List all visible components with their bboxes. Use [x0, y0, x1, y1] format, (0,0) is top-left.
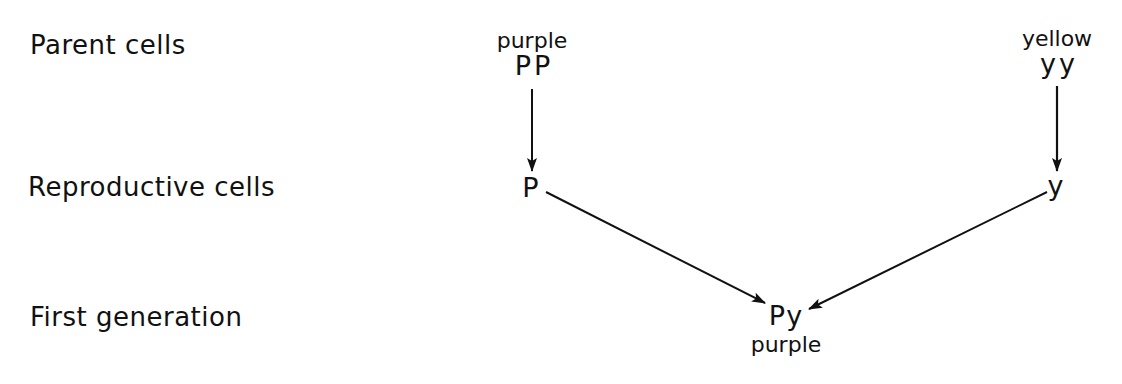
arrow-right-gamete-to-offspring — [809, 192, 1047, 309]
arrow-left-gamete-to-offspring — [546, 192, 765, 303]
inheritance-arrows — [0, 0, 1122, 384]
